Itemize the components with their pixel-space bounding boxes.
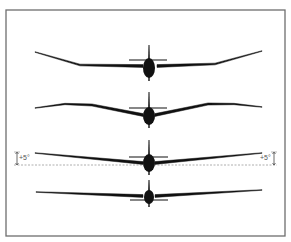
glider-straight-dihedral-5deg bbox=[35, 140, 262, 175]
fuselage bbox=[143, 107, 155, 125]
left-wing bbox=[35, 103, 143, 116]
right-wing bbox=[155, 190, 262, 198]
fuselage bbox=[143, 154, 155, 172]
glider-flat-wing bbox=[36, 180, 262, 207]
left-wing bbox=[35, 52, 143, 68]
glider-front-views bbox=[35, 45, 262, 207]
right-wing bbox=[157, 51, 262, 68]
glider-dihedral-diagram: +5° +5° bbox=[0, 0, 291, 242]
glider-polyhedral-outer-dihedral bbox=[35, 45, 262, 81]
left-wing bbox=[35, 153, 143, 165]
glider-gull-wing bbox=[35, 92, 262, 128]
left-dihedral-angle-label: +5° bbox=[19, 154, 30, 161]
left-wing bbox=[36, 192, 143, 198]
right-wing bbox=[155, 153, 262, 165]
right-wing bbox=[155, 103, 262, 116]
fuselage bbox=[144, 190, 154, 204]
fuselage bbox=[143, 58, 155, 78]
right-dihedral-angle-label: +5° bbox=[260, 154, 271, 161]
